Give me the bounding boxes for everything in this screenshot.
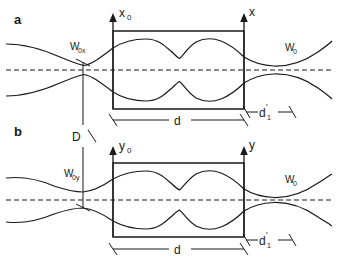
panel-a-label: a [14,12,22,27]
dimension-dprime-b-base: d [259,234,266,248]
axis-arrow-right-b [240,146,248,155]
axis-label-left-b: y 0 [119,139,132,155]
dimension-dprime-a-prime: ' [266,102,268,112]
dimension-dprime-a: d ' 1 [243,102,296,121]
axis-arrow-left-b [109,146,117,155]
beam-upper-left-outer-a [6,44,113,66]
dimension-dprime-b-sub: 1 [267,242,271,249]
dimension-D-tick-mid [88,130,96,142]
axis-arrow-right-a [240,13,248,22]
beam-label-right-b: W 0 [285,174,297,187]
dimension-dprime-b: d ' 1 [243,230,296,249]
dimension-d-a: d [109,114,248,128]
figure-root: a x 0 x [0,0,337,270]
figure-canvas: a x 0 x [0,0,337,270]
axis-label-right-b: y [249,138,255,152]
beam-lower-left-outer-b [6,208,113,223]
beam-upper-left-outer-b [6,177,113,192]
beam-lower-right-outer-a [244,74,332,99]
beam-lower-inner-b [113,210,244,229]
axis-label-right-a: x [249,5,255,19]
axis-label-left-a-sub: 0 [127,13,132,22]
panel-b-label: b [14,124,22,139]
dimension-dprime-a-base: d [259,106,266,120]
beam-label-left-b: W 0y [64,168,80,182]
beam-lower-inner-a [113,82,244,102]
dimension-d-b: d [109,243,248,257]
panel-b: b y 0 y [6,124,332,257]
axis-label-left-b-base: y [119,139,125,153]
dimension-d-a-label: d [174,114,181,128]
beam-label-left-a-sub: 0x [78,47,86,54]
beam-label-right-b-sub: 0 [293,180,297,187]
beam-label-right-a: W 0 [285,42,297,55]
dimension-D-label: D [72,130,81,144]
axis-label-left-a-base: x [119,6,125,20]
beam-lower-right-outer-b [244,202,332,226]
axis-label-right-b-base: y [249,138,255,152]
beam-upper-inner-a [113,39,244,59]
panel-a: a x 0 x [6,5,332,128]
axis-label-left-a: x 0 [119,6,132,22]
beam-label-left-b-sub: 0y [72,174,80,182]
beam-upper-inner-b [113,171,244,190]
axis-label-right-a-base: x [249,5,255,19]
beam-lower-left-outer-a [6,75,113,97]
axis-label-left-b-sub: 0 [127,146,132,155]
axis-arrow-left-a [109,13,117,22]
dimension-d-b-label: d [174,243,181,257]
dimension-D: D [72,59,96,211]
beam-label-right-a-sub: 0 [293,48,297,55]
beam-label-left-a: W 0x [70,41,86,54]
dimension-dprime-b-prime: ' [266,230,268,240]
dimension-dprime-a-sub: 1 [267,114,271,121]
